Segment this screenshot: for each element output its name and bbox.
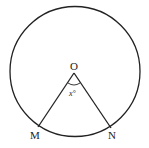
center-label: O [70,60,78,72]
angle-label: x° [68,89,77,98]
point-label-n: N [108,129,116,141]
angle-arc [68,83,80,85]
circle-diagram: O x° M N [0,0,149,148]
point-label-m: M [30,129,40,141]
radius-on [74,73,111,128]
radius-om [38,73,74,127]
